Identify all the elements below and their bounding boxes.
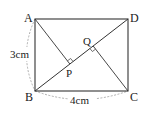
label-b: B	[25, 90, 33, 104]
segment-cq	[93, 46, 128, 91]
right-angle-mark-p	[67, 59, 73, 62]
label-q: Q	[83, 35, 91, 47]
right-angle-mark-q	[90, 49, 96, 52]
segment-ap	[35, 19, 70, 64]
dimension-ab-label: 3cm	[10, 48, 29, 60]
label-p: P	[66, 67, 72, 79]
dimension-bc-label: 4cm	[70, 94, 89, 106]
diagonal-bd	[35, 19, 128, 91]
geometry-diagram: A D B C P Q 3cm 4cm	[0, 0, 153, 113]
label-a: A	[24, 11, 33, 25]
label-d: D	[130, 11, 139, 25]
label-c: C	[130, 90, 138, 104]
